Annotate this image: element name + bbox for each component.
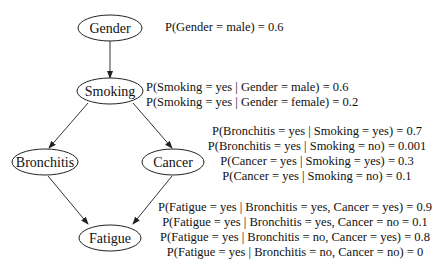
prob-line: P(Cancer = yes | Smoking = no) = 0.1 bbox=[202, 169, 432, 184]
prob-line: P(Cancer = yes | Smoking = yes) = 0.3 bbox=[202, 154, 432, 169]
bronchitis-cancer-probabilities: P(Bronchitis = yes | Smoking = yes) = 0.… bbox=[202, 124, 432, 184]
prob-line: P(Bronchitis = yes | Smoking = no) = 0.0… bbox=[202, 139, 432, 154]
node-cancer: Cancer bbox=[142, 149, 204, 175]
node-bronchitis: Bronchitis bbox=[12, 149, 78, 175]
node-gender: Gender bbox=[78, 15, 142, 41]
prob-line: P(Fatigue = yes | Bronchitis = yes, Canc… bbox=[150, 215, 440, 230]
prob-line: P(Smoking = yes | Gender = male) = 0.6 bbox=[146, 80, 324, 95]
node-smoking: Smoking bbox=[77, 78, 143, 104]
node-fatigue-label: Fatigue bbox=[89, 231, 131, 246]
node-bronchitis-label: Bronchitis bbox=[16, 155, 74, 170]
smoking-probabilities: P(Smoking = yes | Gender = male) = 0.6 P… bbox=[146, 80, 324, 110]
prob-line: P(Fatigue = yes | Bronchitis = no, Cance… bbox=[150, 245, 440, 260]
gender-probabilities: P(Gender = male) = 0.6 bbox=[165, 20, 284, 35]
fatigue-probabilities: P(Fatigue = yes | Bronchitis = yes, Canc… bbox=[150, 200, 440, 260]
prob-line: P(Fatigue = yes | Bronchitis = yes, Canc… bbox=[150, 200, 440, 215]
edge-bronchitis-fatigue bbox=[48, 176, 88, 224]
prob-line: P(Smoking = yes | Gender = female) = 0.2 bbox=[146, 95, 324, 110]
prob-line: P(Fatigue = yes | Bronchitis = no, Cance… bbox=[150, 230, 440, 245]
edge-smoking-bronchitis bbox=[49, 103, 88, 148]
prob-line: P(Bronchitis = yes | Smoking = yes) = 0.… bbox=[202, 124, 432, 139]
prob-line: P(Gender = male) = 0.6 bbox=[165, 20, 284, 35]
node-gender-label: Gender bbox=[89, 21, 131, 36]
node-cancer-label: Cancer bbox=[153, 155, 193, 170]
node-fatigue: Fatigue bbox=[79, 225, 141, 251]
node-smoking-label: Smoking bbox=[85, 84, 136, 99]
